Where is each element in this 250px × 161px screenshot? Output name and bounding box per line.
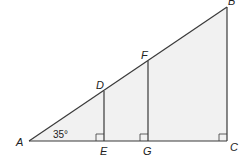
point-label-D: D xyxy=(96,79,104,91)
point-label-C: C xyxy=(230,141,238,153)
angle-label-A: 35° xyxy=(53,129,68,140)
point-label-F: F xyxy=(141,49,149,61)
point-label-A: A xyxy=(15,136,23,148)
triangle-diagram: 35° A B C D E F G xyxy=(0,0,250,161)
point-label-G: G xyxy=(143,145,152,157)
point-label-E: E xyxy=(100,145,108,157)
point-label-B: B xyxy=(228,0,235,7)
